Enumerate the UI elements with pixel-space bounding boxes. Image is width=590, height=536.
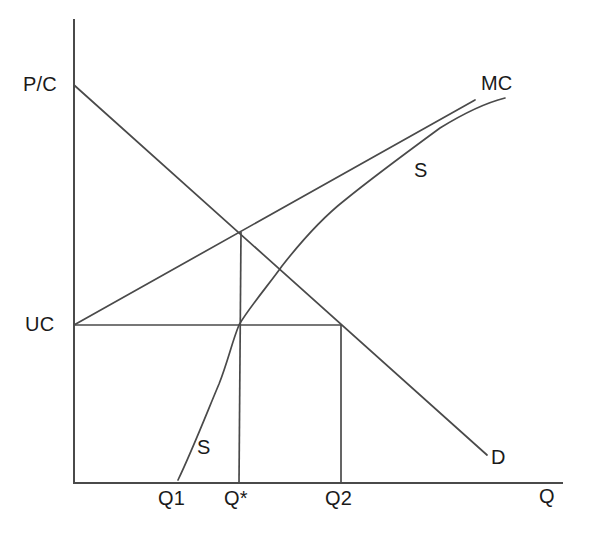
x-axis-label: Q: [539, 486, 555, 506]
supply-line: [74, 100, 475, 325]
y-axis-label: P/C: [23, 74, 57, 94]
curve-label-s-upper: S: [414, 160, 428, 180]
curve-label-s-lower: S: [197, 437, 211, 457]
curve-label-mc: MC: [481, 73, 513, 93]
uc-level-label: UC: [25, 314, 54, 334]
demand-curve: [74, 85, 487, 455]
qstar-vertical-guide: [239, 232, 241, 483]
tick-label-q1: Q1: [158, 488, 185, 508]
economics-diagram: P/C Q UC Q1 Q* Q2 MC S S D: [0, 0, 590, 536]
tick-label-qstar: Q*: [224, 488, 248, 508]
curve-label-d: D: [491, 447, 506, 467]
tick-label-q2: Q2: [325, 488, 352, 508]
